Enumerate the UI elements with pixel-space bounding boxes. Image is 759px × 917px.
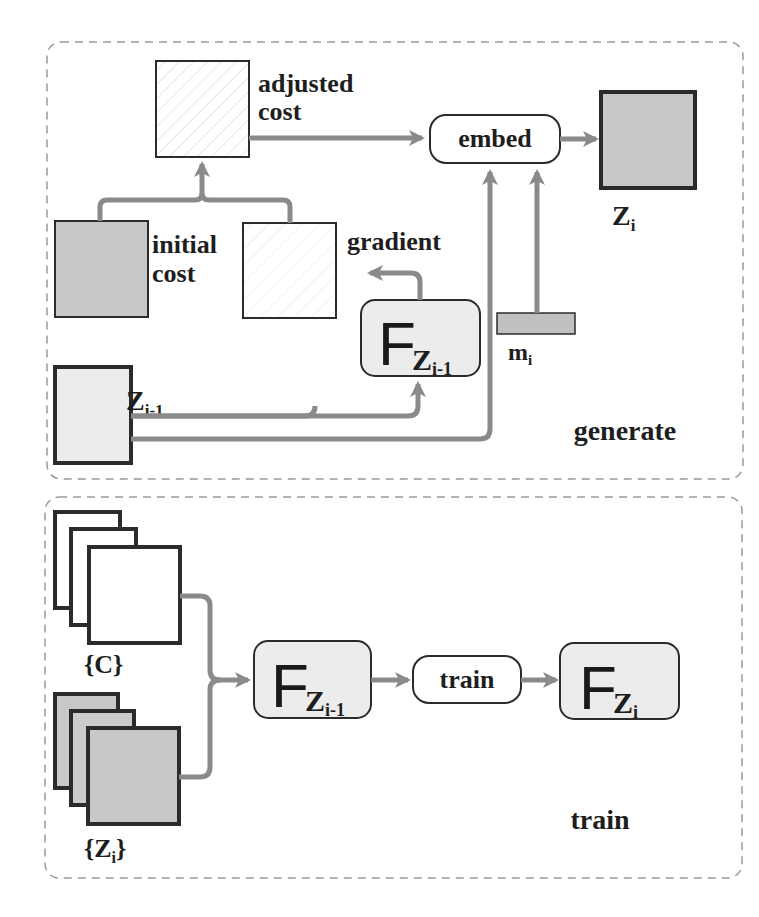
message-label: mi (508, 339, 532, 368)
embed-label: embed (458, 124, 532, 153)
initial-cost-box (55, 221, 148, 317)
train-panel-title: train (570, 804, 630, 835)
initial-cost-label-2: cost (152, 259, 196, 288)
gradient-label: gradient (347, 227, 441, 256)
stegos-to-model-arrow (179, 680, 220, 777)
stego-stack-label: {Zi} (84, 834, 126, 866)
cover-card-3 (89, 547, 180, 643)
previous-to-model-arrow (131, 384, 418, 416)
cover-stack-label: {C} (84, 650, 123, 679)
covers-to-model-arrow (180, 596, 248, 680)
diagram-canvas: adjusted cost initial cost gradient embe… (0, 0, 759, 917)
generate-panel: adjusted cost initial cost gradient embe… (47, 42, 743, 479)
output-stego-label: Zi (612, 200, 636, 235)
adjusted-cost-box (156, 61, 249, 157)
message-bar (497, 313, 575, 334)
stego-card-3 (88, 728, 179, 824)
adjusted-cost-label-2: cost (258, 97, 302, 126)
gradient-to-adjusted-arrow (202, 193, 290, 223)
adjusted-cost-label-1: adjusted (258, 69, 354, 98)
initial-to-adjusted-arrow (100, 164, 202, 221)
initial-cost-label-1: initial (152, 230, 217, 259)
train-panel: {C} {Zi} F Zi-1 train F Zi train (45, 497, 742, 878)
model-to-gradient-arrow (370, 273, 420, 300)
model-out-letter: F (579, 653, 617, 722)
previous-stego-box (55, 367, 131, 463)
model-in-letter: F (271, 651, 309, 720)
stego-stack (55, 694, 179, 824)
train-box-label: train (440, 665, 495, 694)
output-stego-box (601, 92, 695, 188)
model-letter: F (378, 309, 416, 378)
cover-stack (55, 512, 180, 643)
gradient-box (243, 223, 336, 318)
generate-panel-title: generate (574, 415, 677, 446)
